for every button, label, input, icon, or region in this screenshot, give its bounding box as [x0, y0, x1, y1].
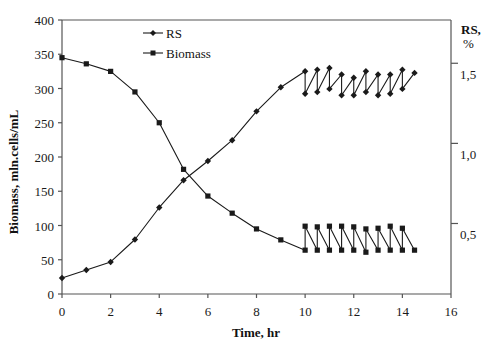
diamond-marker-icon [375, 71, 381, 77]
y-axis-right-ticks: 0,51,01,5 [451, 63, 476, 242]
square-marker-icon [157, 120, 162, 125]
x-tick-label: 2 [107, 304, 114, 319]
diamond-marker-icon [375, 92, 381, 98]
square-marker-icon [400, 226, 405, 231]
square-marker-icon [132, 89, 137, 94]
square-marker-icon [412, 248, 417, 253]
y2-tick-label: 0,5 [460, 227, 476, 242]
square-marker-icon [375, 248, 380, 253]
x-tick-label: 10 [299, 304, 312, 319]
y-axis-left-ticks: 050100150200250300350400 [35, 13, 63, 302]
legend: RS Biomass [143, 26, 211, 61]
square-marker-icon [315, 248, 320, 253]
y-tick-label: 150 [35, 184, 55, 199]
x-tick-label: 16 [445, 304, 459, 319]
square-marker-icon [278, 237, 283, 242]
legend-item-rs: RS [143, 26, 182, 41]
diamond-marker-icon [59, 275, 65, 281]
diamond-marker-icon [387, 91, 393, 97]
square-marker-icon [400, 248, 405, 253]
diamond-marker-icon [351, 74, 357, 80]
square-marker-icon [388, 224, 393, 229]
y-tick-label: 200 [35, 150, 55, 165]
x-tick-label: 12 [347, 304, 360, 319]
y-tick-label: 0 [48, 287, 55, 302]
legend-item-biomass: Biomass [143, 46, 211, 61]
diamond-marker-icon [338, 92, 344, 98]
square-marker-icon [327, 248, 332, 253]
legend-label-rs: RS [166, 26, 182, 41]
y-tick-label: 250 [35, 116, 55, 131]
square-marker-icon [303, 224, 308, 229]
y2-tick-label: 1,5 [460, 67, 476, 82]
square-marker-icon [108, 69, 113, 74]
diamond-marker-icon [387, 71, 393, 77]
square-marker-icon [254, 226, 259, 231]
square-marker-icon [351, 224, 356, 229]
x-tick-label: 4 [156, 304, 163, 319]
square-marker-icon [375, 226, 380, 231]
square-marker-icon [151, 51, 156, 56]
series-biomass [59, 55, 417, 255]
x-tick-label: 8 [253, 304, 260, 319]
y-tick-label: 400 [35, 13, 55, 28]
x-tick-label: 14 [396, 304, 410, 319]
y2-tick-label: 1,0 [460, 147, 476, 162]
square-marker-icon [181, 167, 186, 172]
diamond-marker-icon [363, 89, 369, 95]
x-tick-label: 6 [205, 304, 212, 319]
diamond-marker-icon [314, 66, 320, 72]
square-marker-icon [303, 248, 308, 253]
diamond-marker-icon [83, 267, 89, 273]
square-marker-icon [363, 226, 368, 231]
x-tick-label: 0 [59, 304, 66, 319]
diamond-marker-icon [363, 68, 369, 74]
square-marker-icon [205, 193, 210, 198]
diamond-marker-icon [302, 68, 308, 74]
y-axis-right-title-line1: RS, [461, 22, 481, 37]
square-marker-icon [339, 248, 344, 253]
y-tick-label: 100 [35, 219, 55, 234]
biomass-rs-chart: 0246810121416 050100150200250300350400 0… [0, 0, 491, 348]
square-marker-icon [388, 248, 393, 253]
diamond-marker-icon [314, 89, 320, 95]
legend-label-biomass: Biomass [166, 46, 211, 61]
diamond-marker-icon [326, 65, 332, 71]
y-tick-label: 350 [35, 47, 55, 62]
y-tick-label: 300 [35, 82, 55, 97]
y-tick-label: 50 [41, 253, 54, 268]
square-marker-icon [363, 250, 368, 255]
square-marker-icon [327, 224, 332, 229]
square-marker-icon [351, 248, 356, 253]
y-axis-left-title: Biomass, mln.cells/mL [6, 109, 21, 234]
square-marker-icon [315, 224, 320, 229]
square-marker-icon [84, 61, 89, 66]
diamond-marker-icon [302, 91, 308, 97]
series-layer [59, 55, 418, 281]
square-marker-icon [59, 55, 64, 60]
diamond-marker-icon [399, 66, 405, 72]
diamond-marker-icon [150, 30, 156, 36]
x-axis-title: Time, hr [232, 325, 280, 340]
square-marker-icon [339, 224, 344, 229]
x-axis-ticks: 0246810121416 [59, 294, 458, 319]
diamond-marker-icon [351, 92, 357, 98]
y-axis-right-title-line2: % [463, 36, 474, 51]
square-marker-icon [230, 211, 235, 216]
